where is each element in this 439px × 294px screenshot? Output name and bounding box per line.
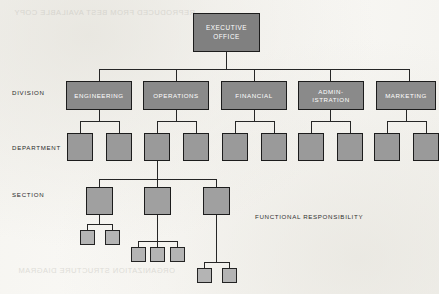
organization-chart-canvas: REPRODUCED FROM BEST AVAILABLE COPY ORGA… <box>0 0 439 294</box>
connector-section-stem <box>157 161 158 179</box>
node-subsection-3-1[interactable] <box>197 268 212 283</box>
connector-sec3-stem <box>216 215 217 262</box>
row-label-division: DIVISION <box>12 89 45 96</box>
connector-fin-drop-1 <box>235 121 236 133</box>
connector-admin-drop-2 <box>350 121 351 133</box>
node-department-ops-2[interactable] <box>183 133 209 161</box>
connector-eng-drop-2 <box>119 121 120 133</box>
node-subsection-2-1[interactable] <box>131 247 146 262</box>
node-department-eng-2[interactable] <box>106 133 132 161</box>
node-subsection-2-3[interactable] <box>170 247 185 262</box>
node-division-engineering[interactable]: ENGINEERING <box>66 81 132 110</box>
node-department-admin-1[interactable] <box>298 133 324 161</box>
node-division-administration[interactable]: ADMIN- ISTRATION <box>298 81 364 110</box>
connector-section-drop-3 <box>216 179 217 187</box>
connector-ops-bus <box>157 121 196 122</box>
row-label-section: SECTION <box>12 191 44 198</box>
node-department-admin-2[interactable] <box>337 133 363 161</box>
node-subsection-1-2[interactable] <box>105 230 120 245</box>
node-department-fin-1[interactable] <box>222 133 248 161</box>
node-subsection-1-1[interactable] <box>80 230 95 245</box>
ghost-text-top: REPRODUCED FROM BEST AVAILABLE COPY <box>14 8 195 17</box>
node-department-mkt-1[interactable] <box>374 133 400 161</box>
connector-division-drop-4 <box>330 69 331 81</box>
ghost-text-bottom: ORGANIZATION STRUCTURE DIAGRAM <box>18 266 175 275</box>
connector-division-drop-5 <box>409 69 410 81</box>
connector-sec1-stem <box>99 215 100 224</box>
node-section-1[interactable] <box>86 187 113 215</box>
node-department-mkt-2[interactable] <box>413 133 439 161</box>
node-section-3[interactable] <box>203 187 230 215</box>
functional-responsibility-label: FUNCTIONAL RESPONSIBILITY <box>255 213 363 220</box>
connector-sec1-bus <box>87 224 112 225</box>
connector-section-drop-2 <box>157 179 158 187</box>
executive-office-line2: OFFICE <box>213 33 240 40</box>
division-financial-line1: FINANCIAL <box>235 92 272 99</box>
node-department-eng-1[interactable] <box>67 133 93 161</box>
connector-division-drop-3 <box>254 69 255 81</box>
connector-division-drop-2 <box>176 69 177 81</box>
connector-mkt-drop-1 <box>387 121 388 133</box>
connector-ops-stem <box>176 110 177 121</box>
division-administration-line2: ISTRATION <box>312 96 350 103</box>
connector-section-drop-1 <box>99 179 100 187</box>
connector-sec2-stem <box>157 215 158 241</box>
node-subsection-3-2[interactable] <box>222 268 237 283</box>
node-subsection-2-2[interactable] <box>150 247 165 262</box>
node-executive-office[interactable]: EXECUTIVE OFFICE <box>193 13 260 52</box>
connector-mkt-bus <box>387 121 426 122</box>
node-department-fin-2[interactable] <box>261 133 287 161</box>
connector-fin-bus <box>235 121 274 122</box>
connector-mkt-stem <box>406 110 407 121</box>
connector-admin-drop-1 <box>311 121 312 133</box>
connector-ops-drop-1 <box>157 121 158 133</box>
division-administration-line1: ADMIN- <box>318 88 343 95</box>
connector-fin-stem <box>254 110 255 121</box>
node-division-financial[interactable]: FINANCIAL <box>221 81 287 110</box>
executive-office-line1: EXECUTIVE <box>206 24 247 31</box>
node-division-marketing[interactable]: MARKETING <box>376 81 436 110</box>
connector-ops-drop-2 <box>196 121 197 133</box>
connector-admin-stem <box>330 110 331 121</box>
division-marketing-line1: MARKETING <box>385 92 427 99</box>
connector-eng-bus <box>80 121 119 122</box>
connector-sec3-bus <box>204 262 229 263</box>
connector-exec-stem <box>226 52 227 69</box>
node-department-ops-1[interactable] <box>144 133 170 161</box>
connector-admin-bus <box>311 121 350 122</box>
row-label-department: DEPARTMENT <box>12 144 61 151</box>
connector-eng-drop-1 <box>80 121 81 133</box>
node-division-operations[interactable]: OPERATIONS <box>143 81 209 110</box>
connector-division-drop-1 <box>99 69 100 81</box>
connector-mkt-drop-2 <box>426 121 427 133</box>
division-engineering-line1: ENGINEERING <box>74 92 123 99</box>
node-section-2[interactable] <box>144 187 171 215</box>
division-operations-line1: OPERATIONS <box>153 92 199 99</box>
connector-fin-drop-2 <box>274 121 275 133</box>
connector-eng-stem <box>99 110 100 121</box>
